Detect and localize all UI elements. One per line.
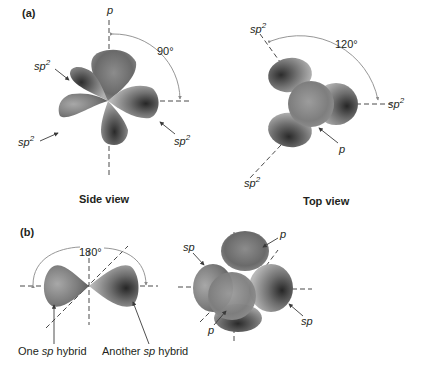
sp2-label-lower-left: sp2	[18, 134, 35, 148]
sp-label-right: sp	[301, 315, 313, 327]
one-sp-hybrid-caption: One sp hybrid	[18, 345, 87, 357]
p-axis-label: p	[106, 4, 113, 16]
sp2-top-view: sp2 sp2 sp2 120° p Top view	[244, 21, 405, 207]
pointer-arrow	[160, 122, 175, 134]
sp2-label-lower-left: sp2	[244, 175, 261, 189]
sp2-label-upper-left: sp2	[34, 58, 51, 72]
p-orbital-center	[288, 81, 334, 127]
pointer-arrow	[193, 253, 204, 265]
angle-label-120: 120°	[335, 38, 358, 50]
sp2-side-view: p 90° sp2 sp2 sp2 Side view	[18, 4, 192, 205]
angle-label-90: 90°	[157, 45, 174, 57]
p-label: p	[338, 143, 345, 155]
p-lobe-front	[208, 272, 256, 320]
sp-linear-hybrids: 180° One sp hybrid Another sp hybrid	[18, 246, 188, 357]
p-lobe-top	[221, 231, 269, 271]
angle-label-180: 180°	[79, 246, 102, 258]
sp-lobe-right	[89, 265, 139, 306]
another-sp-hybrid-caption: Another sp hybrid	[102, 345, 188, 357]
sp2-axis-lower-left	[250, 145, 281, 178]
pointer-arrow	[40, 133, 58, 141]
panel-a-label: (a)	[22, 7, 36, 19]
side-view-caption: Side view	[79, 193, 130, 205]
top-view-caption: Top view	[303, 195, 350, 207]
sp-lobe-left	[44, 265, 89, 306]
sp-3d-view: sp p p sp	[178, 228, 313, 342]
sp2-label-upper-left: sp2	[250, 21, 267, 35]
sp2-label-lower-right: sp2	[174, 133, 191, 147]
sp-label-upper-left: sp	[183, 241, 195, 253]
sp-lobe-right	[249, 264, 293, 312]
p-label-bottom-left: p	[207, 324, 214, 336]
orbital-hybridization-figure: (a) p 90° sp2 sp2 sp2 Side view	[0, 0, 426, 372]
pointer-arrow	[319, 128, 338, 143]
sp2-label-right: sp2	[388, 96, 405, 110]
panel-b-label: (b)	[20, 226, 34, 238]
pointer-arrow	[289, 304, 303, 316]
p-label-top-right: p	[279, 228, 286, 240]
pointer-arrow	[55, 69, 69, 80]
pointer-arrow	[133, 302, 149, 344]
